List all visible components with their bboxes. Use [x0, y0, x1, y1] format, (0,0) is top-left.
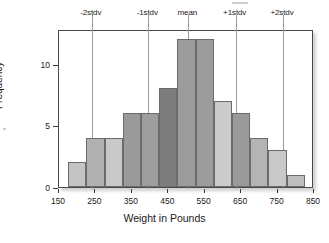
x-tick-mark	[313, 189, 314, 193]
x-tick-mark	[94, 189, 95, 193]
histogram-bar	[68, 162, 86, 187]
y-tick-label: 5	[28, 121, 50, 131]
scan-speck	[3, 128, 6, 130]
x-tick-label: 850	[306, 196, 320, 206]
y-axis-label: Frequency	[0, 62, 4, 109]
histogram-bar	[177, 39, 195, 187]
x-tick-label: 150	[51, 196, 65, 206]
histogram-bar	[86, 138, 104, 187]
x-tick-label: 450	[160, 196, 174, 206]
x-tick-label: 350	[124, 196, 138, 206]
stdv-label: -1stdv	[137, 8, 158, 17]
histogram-bar	[250, 138, 268, 187]
x-tick-label: 750	[269, 196, 283, 206]
histogram-bar	[268, 150, 286, 187]
x-axis-label: Weight in Pounds	[0, 212, 329, 224]
stdv-label: mean	[178, 8, 198, 17]
plot-inner	[59, 31, 312, 187]
x-tick-mark	[240, 189, 241, 193]
histogram-bar	[141, 113, 159, 187]
stdv-label: -2stdv	[80, 8, 101, 17]
x-tick-label: 650	[233, 196, 247, 206]
histogram-bar	[123, 113, 141, 187]
histogram-bar	[105, 138, 123, 187]
x-tick-mark	[131, 189, 132, 193]
histogram-figure: -2stdv-1stdvmean+1stdv+2stdv Frequency 0…	[0, 0, 329, 243]
x-tick-mark	[167, 189, 168, 193]
x-tick-mark	[204, 189, 205, 193]
x-tick-label: 250	[87, 196, 101, 206]
histogram-bar	[287, 175, 305, 187]
histogram-bar	[232, 113, 250, 187]
x-tick-label: 550	[197, 196, 211, 206]
histogram-bar	[196, 39, 214, 187]
y-tick-label: 0	[28, 183, 50, 193]
stdv-label: +2stdv	[270, 8, 293, 17]
histogram-bar	[214, 101, 232, 187]
x-tick-mark	[277, 189, 278, 193]
scan-speck	[232, 2, 248, 4]
stdv-label: +1stdv	[223, 8, 246, 17]
histogram-bar	[159, 88, 177, 187]
plot-area	[58, 30, 313, 188]
y-tick-label: 10	[28, 60, 50, 70]
x-tick-mark	[58, 189, 59, 193]
